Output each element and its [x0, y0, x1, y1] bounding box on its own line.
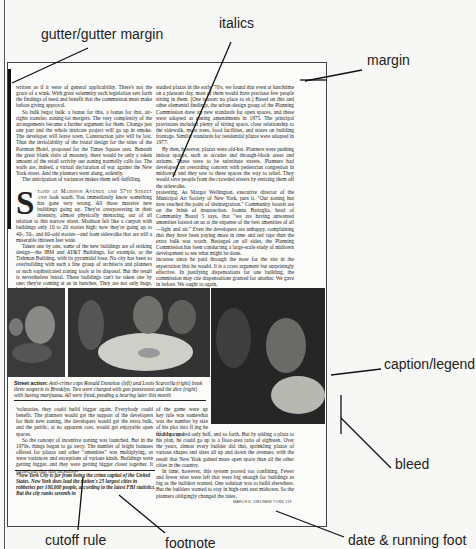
lower-column-1: 'volutaries, they could build bigger aga…	[16, 406, 153, 474]
dropcap-body: look south. You immediately know somethi…	[16, 194, 152, 243]
photo-caption: Street action: Anti-crime cops Ronald Do…	[14, 380, 206, 401]
outer-trim-line	[4, 0, 5, 549]
dropcap-paragraph: Stand at Madison Avenue and 57th Street …	[16, 188, 152, 243]
photo-left	[7, 288, 65, 377]
paragraph: So bulk begot bulk: a bonus for this, a …	[16, 109, 152, 177]
annotation-margin: margin	[367, 52, 410, 68]
lower-column-2: fif it he covered only half, and so fort…	[156, 431, 294, 499]
annotation-cutoff-rule: cutoff rule	[45, 532, 106, 548]
annotation-caption: caption/legend	[384, 356, 475, 372]
article-column-2: studied plazas in the early '70's, we fo…	[156, 84, 294, 287]
paragraph: protesting. As Margot Wellington, execut…	[156, 189, 294, 257]
annotation-italics: italics	[219, 15, 254, 31]
article-column-1: written as if it were of general applica…	[16, 84, 152, 292]
annotation-footnote: footnote	[165, 535, 216, 549]
cutoff-rule	[15, 470, 155, 471]
paragraph: So the concept of incentive zoning was l…	[16, 437, 153, 474]
annotation-gutter: gutter/gutter margin	[41, 26, 163, 42]
dropcap-letter: S	[16, 190, 34, 216]
footnote: *New York City is far from being the cri…	[16, 473, 156, 497]
paragraph: 'volutaries, they could build bigger aga…	[16, 406, 153, 437]
caption-lead: Street action:	[14, 380, 48, 386]
paragraph: increase since he paid through the nose …	[156, 256, 294, 287]
photo-center	[68, 288, 210, 377]
paragraph: By then, however, plazas were old-hat. P…	[156, 146, 294, 189]
annotation-bleed: bleed	[395, 456, 429, 472]
paragraph: In time, however, this system proved too…	[156, 468, 294, 499]
gutter-bar	[8, 69, 11, 229]
running-foot: MARCH 8, 1981/NEW YORK 119	[233, 500, 292, 504]
annotation-running-foot: date & running foot	[348, 532, 466, 548]
photo-right-bleed	[211, 288, 325, 424]
paragraph: Taken one by one, some of the new buildi…	[16, 243, 152, 292]
paragraph: written as if it were of general applica…	[16, 84, 152, 109]
paragraph: The anticipation of variances makes them…	[16, 176, 152, 182]
paragraph: fif it he covered only half, and so fort…	[156, 431, 294, 468]
paragraph: studied plazas in the early '70's, we fo…	[156, 84, 294, 146]
